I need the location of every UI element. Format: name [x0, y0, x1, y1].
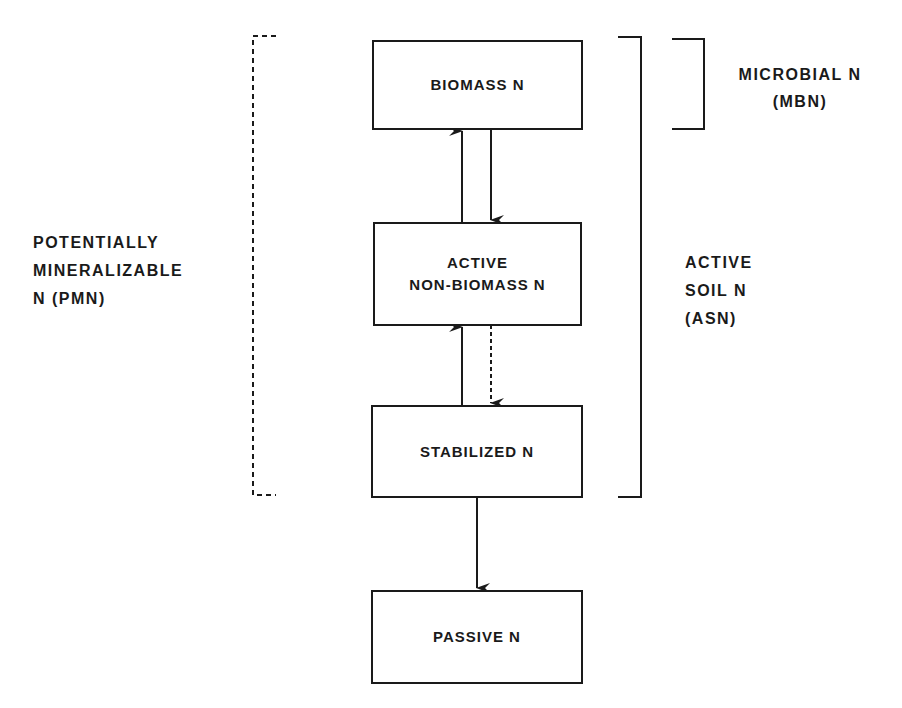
biomass-n-box: BIOMASS N	[372, 40, 583, 130]
asn-bracket	[618, 37, 641, 497]
active-non-biomass-n-box: ACTIVE NON-BIOMASS N	[373, 222, 582, 326]
passive-n-label: PASSIVE N	[433, 626, 521, 648]
active-non-biomass-n-label: ACTIVE NON-BIOMASS N	[409, 252, 545, 296]
biomass-n-label: BIOMASS N	[430, 74, 524, 96]
stabilized-n-label: STABILIZED N	[420, 441, 534, 463]
pmn-bracket	[253, 36, 276, 495]
mbn-label: MICROBIAL N (MBN)	[720, 61, 880, 115]
mbn-bracket	[672, 39, 704, 129]
asn-label: ACTIVE SOIL N (ASN)	[685, 249, 753, 333]
pmn-label: POTENTIALLY MINERALIZABLE N (PMN)	[33, 229, 183, 313]
stabilized-n-box: STABILIZED N	[371, 405, 583, 498]
passive-n-box: PASSIVE N	[371, 590, 583, 684]
